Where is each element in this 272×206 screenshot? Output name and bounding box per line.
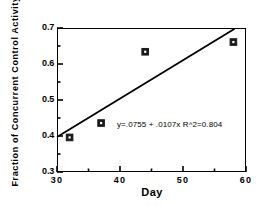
x-axis-title: Day bbox=[57, 186, 247, 198]
plot-area bbox=[57, 28, 246, 172]
y-tick-label: 0.7 bbox=[28, 23, 54, 32]
chart-figure: Fraction of Concurrent Control Activity … bbox=[0, 0, 272, 206]
y-tick-label: 0.5 bbox=[28, 95, 54, 104]
y-tick-label: 0.4 bbox=[28, 131, 54, 140]
regression-equation-annotation: y=.0755 + .0107x R^2=0.804 bbox=[117, 121, 222, 129]
x-tick-label: 40 bbox=[105, 176, 135, 185]
y-tick-label: 0.6 bbox=[28, 59, 54, 68]
x-tick-label: 50 bbox=[168, 176, 198, 185]
x-tick-label: 30 bbox=[42, 176, 72, 185]
x-tick-label: 60 bbox=[231, 176, 261, 185]
y-axis-title: Fraction of Concurrent Control Activity bbox=[11, 7, 20, 187]
